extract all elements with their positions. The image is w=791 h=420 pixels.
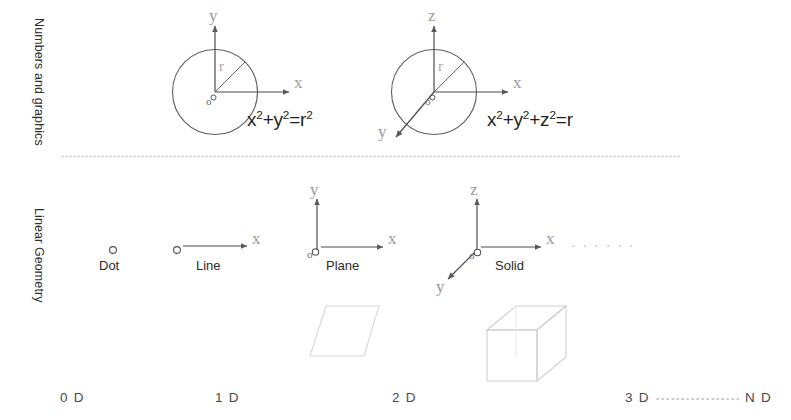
solid-origin-label: o [469, 249, 475, 261]
equation-term: x [487, 109, 496, 130]
vector-layer [0, 0, 791, 420]
scale-label-0d: 0 D [60, 390, 85, 405]
sphere-3d-z-axis-label: z [428, 6, 436, 26]
plane-y-axis-label: y [310, 180, 319, 200]
caption-dot: Dot [99, 258, 119, 273]
diagram-canvas: Numbers and graphics Linear Geometry y x… [0, 0, 791, 420]
equation-exponent: 2 [306, 108, 312, 121]
circle-2d-x-axis-label: x [294, 73, 303, 93]
circle-2d-equation: x2+y2=r2 [247, 108, 313, 131]
scale-label-2d: 2 D [392, 390, 417, 405]
equation-term: =r [556, 109, 573, 130]
row-label-linear-geometry: Linear Geometry [32, 208, 46, 303]
caption-solid: Solid [495, 258, 524, 273]
caption-plane: Plane [326, 258, 359, 273]
geometry-solid-cube [487, 306, 566, 381]
row-label-numbers-and-graphics: Numbers and graphics [32, 18, 46, 146]
sphere-3d-origin-label: o [425, 95, 431, 107]
scale-label-3d: 3 D [625, 390, 650, 405]
sphere-3d-radius-label: r [438, 58, 443, 75]
solid-y-axis-label: y [436, 277, 445, 297]
sphere-3d-equation: x2+y2+z2=r [487, 108, 573, 131]
caption-line: Line [196, 258, 221, 273]
sphere-3d-y-axis-label: y [378, 122, 387, 142]
scale-label-nd: N D [745, 390, 772, 405]
circle-2d-y-axis-label: y [209, 6, 218, 26]
geometry-plane-axes [312, 199, 383, 255]
page-corner-artifact [4, 2, 6, 9]
line-x-axis-label: x [252, 229, 261, 249]
geometry-line [174, 246, 247, 253]
equation-term: +y [263, 109, 283, 130]
continuation-dots: · · · · · · [571, 237, 635, 253]
geometry-plane-parallelogram [310, 306, 379, 356]
solid-x-axis-label: x [546, 229, 555, 249]
plane-origin-label: o [307, 248, 313, 260]
scale-label-1d: 1 D [215, 390, 240, 405]
circle-2d-origin-label: o [206, 95, 212, 107]
geometry-dot [110, 247, 117, 254]
sphere-3d-x-axis-label: x [513, 73, 522, 93]
equation-term: +y [503, 109, 523, 130]
equation-term: x [247, 109, 256, 130]
equation-term: +z [529, 109, 549, 130]
solid-z-axis-label: z [470, 180, 478, 200]
equation-term: =r [289, 109, 306, 130]
circle-2d-radius-label: r [219, 58, 224, 75]
plane-x-axis-label: x [388, 229, 397, 249]
